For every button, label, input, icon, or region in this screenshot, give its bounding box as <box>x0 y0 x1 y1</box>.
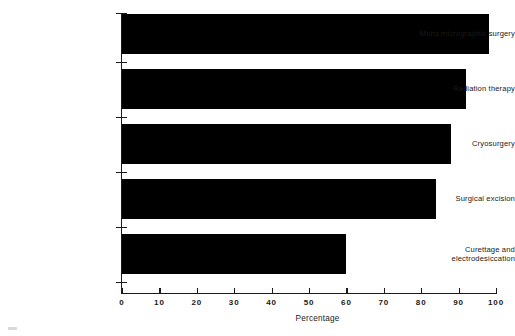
bar-4 <box>122 179 436 219</box>
x-axis-tick-label: 80 <box>401 298 441 307</box>
category-label: Surgical excision <box>401 194 515 203</box>
x-axis-tick-label: 70 <box>364 298 404 307</box>
x-axis-tick <box>234 288 235 294</box>
x-axis-tick <box>346 288 347 294</box>
x-axis-tick-label: 20 <box>177 298 217 307</box>
bar-chart: Mohs micrographic surgeryRadiation thera… <box>0 0 515 336</box>
x-axis-tick <box>272 288 273 294</box>
bars-layer: Mohs micrographic surgeryRadiation thera… <box>0 0 515 336</box>
x-axis-tick-label: 90 <box>439 298 479 307</box>
x-axis-tick <box>122 288 123 294</box>
x-axis-tick-label: 30 <box>214 298 254 307</box>
y-axis-tick <box>116 117 127 118</box>
x-axis-tick <box>197 288 198 294</box>
x-axis-tick <box>496 288 497 294</box>
x-axis-tick <box>421 288 422 294</box>
y-axis-tick <box>116 62 127 63</box>
category-label: Mohs micrographic surgery <box>401 29 515 38</box>
y-axis-tick <box>116 172 127 173</box>
x-axis-tick-label: 10 <box>139 298 179 307</box>
bar-fill <box>122 234 346 274</box>
x-axis-tick <box>159 288 160 294</box>
x-axis-tick-label: 60 <box>326 298 366 307</box>
category-label: Curettage and electrodesiccation <box>401 245 515 264</box>
x-axis-tick-label: 40 <box>252 298 292 307</box>
x-axis-tick <box>459 288 460 294</box>
plot-area: Mohs micrographic surgeryRadiation thera… <box>0 0 515 336</box>
x-axis-title-text: Percentage <box>296 314 340 323</box>
category-label: Cryosurgery <box>401 139 515 148</box>
bar-fill <box>122 179 436 219</box>
y-axis-tick <box>116 282 127 283</box>
x-axis-tick-label: 50 <box>289 298 329 307</box>
y-axis-tick <box>116 227 127 228</box>
x-axis-tick-label: 100 <box>476 298 515 307</box>
x-axis-tick-label: 0 <box>102 298 142 307</box>
category-label: Radiation therapy <box>401 84 515 93</box>
scan-artifact <box>8 327 17 330</box>
x-axis-tick <box>384 288 385 294</box>
bar-5 <box>122 234 346 274</box>
x-axis-title: Percentage <box>0 314 515 323</box>
x-axis-tick <box>309 288 310 294</box>
